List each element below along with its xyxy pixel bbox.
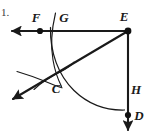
label-G: G [59,10,69,25]
geometry-figure-container: LEFT (through F, G) ============ --> DOW… [0,0,151,139]
point-D-dot [125,112,131,118]
label-E: E [119,9,129,24]
label-D: D [133,108,144,123]
label-F: F [31,10,41,25]
point-E-dot [125,28,132,35]
label-C: C [52,81,61,96]
label-H: H [130,82,142,97]
point-F-dot [37,28,43,34]
item-number: 1. [1,6,10,18]
geometry-construction-diagram: LEFT (through F, G) ============ --> DOW… [0,0,151,139]
